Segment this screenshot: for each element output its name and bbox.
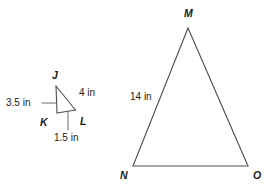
measure-label-jl: 4 in	[79, 88, 95, 98]
vertex-label-j: J	[52, 70, 58, 81]
triangle-jkl-shape	[56, 86, 76, 113]
geometry-figure: J K L 3.5 in 4 in 1.5 in M N O 14 in	[0, 0, 272, 189]
vertex-label-l: L	[80, 116, 87, 127]
vertex-label-k: K	[40, 117, 48, 128]
measure-label-mn: 14 in	[130, 92, 152, 102]
vertex-label-m: M	[184, 8, 193, 19]
segment-kl	[57, 110, 76, 113]
segment-jl	[56, 86, 76, 110]
measure-label-kl: 1.5 in	[54, 133, 78, 143]
segment-mo	[188, 28, 248, 166]
vertex-label-o: O	[253, 170, 261, 181]
segment-jk	[56, 86, 57, 113]
vertex-label-n: N	[120, 170, 128, 181]
measure-label-jk: 3.5 in	[6, 98, 30, 108]
